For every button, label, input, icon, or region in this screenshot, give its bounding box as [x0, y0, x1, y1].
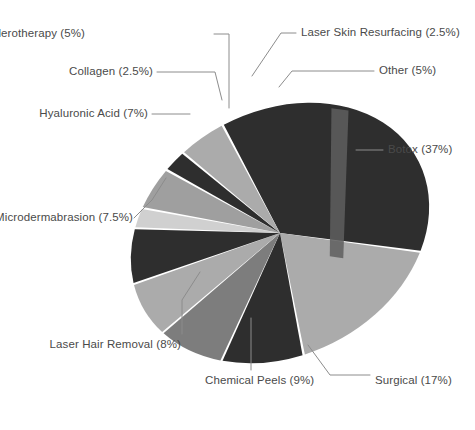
leader-other — [279, 71, 374, 87]
label-microdermabrasion: Microdermabrasion (7.5%) — [0, 211, 133, 224]
label-collagen: Collagen (2.5%) — [69, 65, 153, 78]
label-other: Other (5%) — [379, 64, 436, 77]
leader-laser-skin-resurfacing — [252, 33, 296, 76]
label-surgical: Surgical (17%) — [375, 374, 452, 387]
label-botox: Botox (37%) — [388, 143, 452, 156]
label-hyaluronic-acid: Hyaluronic Acid (7%) — [39, 107, 148, 120]
label-sclerotherapy: Sclerotherapy (5%) — [0, 27, 85, 40]
label-chemical-peels: Chemical Peels (9%) — [205, 374, 314, 387]
pie-chart-figure: Sclerotherapy (5%) Collagen (2.5%) Hyalu… — [0, 0, 475, 430]
leader-collagen — [157, 72, 222, 100]
label-laser-hair-removal: Laser Hair Removal (8%) — [50, 338, 181, 351]
label-laser-skin-resurfacing: Laser Skin Resurfacing (2.5%) — [301, 26, 460, 39]
